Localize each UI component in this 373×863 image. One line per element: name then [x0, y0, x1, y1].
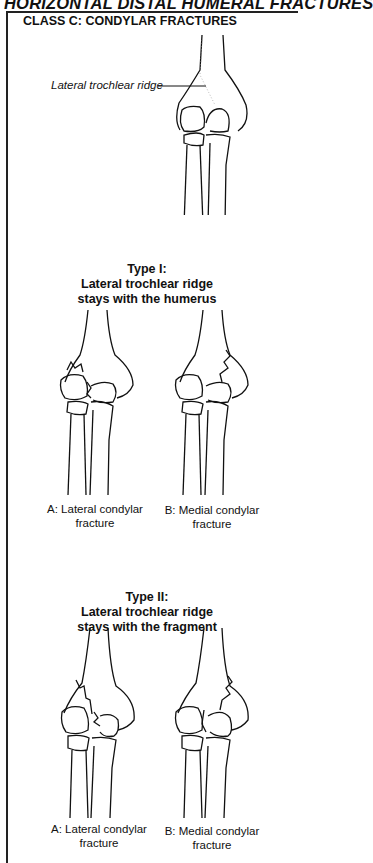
type-1-caption-b: B: Medial condylar fracture — [162, 503, 262, 531]
label-leader-line — [158, 84, 206, 88]
caption-line1: A: Lateral condylar — [40, 502, 150, 516]
elbow-illustration-type1-lateral — [55, 310, 135, 500]
caption-line2: fracture — [40, 516, 150, 530]
elbow-illustration-type2-medial — [172, 628, 252, 823]
lateral-trochlear-ridge-label: Lateral trochlear ridge — [51, 79, 163, 91]
class-title: CLASS C: CONDYLAR FRACTURES — [23, 14, 237, 28]
caption-line1: A: Lateral condylar — [44, 822, 154, 836]
type-1-caption-a: A: Lateral condylar fracture — [40, 502, 150, 530]
type-1-title-line2: Lateral trochlear ridge — [0, 277, 294, 292]
type-1-title-line1: Type I: — [0, 262, 294, 277]
caption-line2: fracture — [162, 517, 262, 531]
caption-line2: fracture — [44, 836, 154, 850]
type-2-caption-b: B: Medial condylar fracture — [162, 824, 262, 852]
type-2-caption-a: A: Lateral condylar fracture — [44, 822, 154, 850]
caption-line1: B: Medial condylar — [162, 503, 262, 517]
type-1-title: Type I: Lateral trochlear ridge stays wi… — [0, 262, 294, 307]
type-2-title-line1: Type II: — [0, 590, 294, 605]
elbow-illustration-normal — [170, 35, 260, 215]
caption-line1: B: Medial condylar — [162, 824, 262, 838]
caption-line2: fracture — [162, 838, 262, 852]
type-2-title-line2: Lateral trochlear ridge — [0, 605, 294, 620]
elbow-illustration-type1-medial — [170, 310, 250, 500]
type-1-title-line3: stays with the humerus — [0, 292, 294, 307]
elbow-illustration-type2-lateral — [58, 628, 138, 823]
